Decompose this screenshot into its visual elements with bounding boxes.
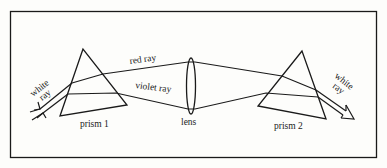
lens-shape (187, 58, 196, 114)
prism-2-label: prism 2 (274, 121, 303, 131)
prism-1-label: prism 1 (80, 119, 109, 129)
prism-1-shape (60, 49, 127, 116)
prism-2-shape (258, 51, 326, 119)
lens-label: lens (181, 117, 197, 127)
white-ray-out-arrow (316, 90, 354, 119)
diagram-frame (11, 12, 377, 158)
optics-diagram: white ray red ray violet ray prism 1 len… (0, 0, 387, 168)
red-ray-label: red ray (129, 52, 157, 66)
violet-ray-path (68, 93, 318, 109)
violet-ray-label: violet ray (135, 80, 172, 94)
